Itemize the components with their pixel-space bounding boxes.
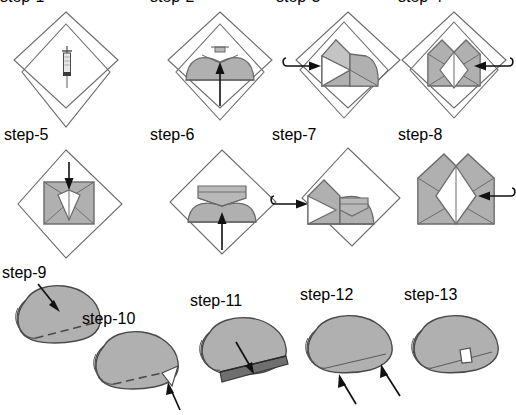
panel-step-8: step-8 bbox=[398, 140, 516, 275]
panel-step-13: step-13 bbox=[404, 300, 516, 400]
panel-step-9-label: step-9 bbox=[2, 264, 47, 281]
white-tab bbox=[460, 348, 472, 363]
panel-step-11-label: step-11 bbox=[190, 292, 242, 309]
pillow-body bbox=[96, 332, 178, 389]
panel-step-1-label: step-1 bbox=[0, 0, 45, 5]
panel-step-4: step-4 bbox=[398, 2, 516, 142]
panel-step-7-label: step-7 bbox=[272, 126, 317, 143]
panel-step-12-label: step-12 bbox=[300, 286, 353, 303]
panel-step-4-label: step-4 bbox=[398, 0, 443, 5]
panel-step-10: step-10 bbox=[82, 324, 197, 412]
pillow-body bbox=[308, 316, 392, 373]
folded-right-panel bbox=[350, 54, 378, 86]
panel-step-6-label: step-6 bbox=[150, 126, 195, 143]
panel-step-8-label: step-8 bbox=[398, 126, 443, 143]
panel-step-13-label: step-13 bbox=[404, 286, 457, 303]
panel-step-12: step-12 bbox=[300, 300, 420, 412]
arrow-curved-right bbox=[283, 58, 321, 71]
panel-step-2-label: step-2 bbox=[150, 0, 195, 5]
arrow-diagonal-up-left bbox=[166, 382, 180, 410]
panel-step-3-label: step-3 bbox=[276, 0, 321, 5]
syringe-icon bbox=[62, 46, 72, 88]
arrow-up-left-1 bbox=[338, 374, 356, 404]
panel-step-3: step-3 bbox=[276, 2, 416, 142]
pillow-body bbox=[414, 316, 498, 373]
panel-step-1: step-1 bbox=[0, 2, 140, 142]
folding-instructions-figure: step-1 step-2 bbox=[0, 0, 516, 415]
arrow-up-left-2 bbox=[380, 364, 400, 396]
cap-icon bbox=[211, 47, 229, 52]
panel-step-11: step-11 bbox=[190, 306, 305, 401]
panel-step-10-label: step-10 bbox=[82, 310, 135, 327]
panel-step-7: step-7 bbox=[272, 140, 417, 275]
panel-step-5: step-5 bbox=[4, 140, 144, 275]
panel-step-5-label: step-5 bbox=[4, 126, 49, 143]
